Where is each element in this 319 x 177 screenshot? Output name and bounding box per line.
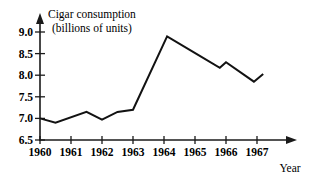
y-axis-arrowhead: [36, 13, 44, 24]
y-tick-labels: 9.0 8.5 8.0 7.5 7.0 6.5: [19, 26, 34, 146]
x-axis-title: Year: [279, 162, 300, 174]
chart-canvas: 9.0 8.5 8.0 7.5 7.0 6.5 1960 1961 1962 1…: [0, 0, 319, 177]
y-tick-label-3: 7.5: [19, 91, 34, 103]
x-tick-label-1: 1961: [60, 146, 83, 158]
x-axis: [40, 136, 297, 144]
x-tick-label-4: 1964: [153, 146, 176, 158]
chart-title-line-1: Cigar consumption: [48, 8, 136, 21]
x-tick-label-3: 1963: [122, 146, 145, 158]
x-tick-label-6: 1966: [215, 146, 238, 158]
data-series-line: [40, 36, 263, 122]
chart-title: Cigar consumption (billions of units): [48, 8, 136, 35]
chart-title-line-2: (billions of units): [52, 22, 132, 35]
x-tick-labels: 1960 1961 1962 1963 1964 1965 1966 1967: [29, 146, 269, 158]
y-tick-label-0: 9.0: [19, 26, 34, 38]
cigar-consumption-chart: 9.0 8.5 8.0 7.5 7.0 6.5 1960 1961 1962 1…: [0, 0, 319, 177]
x-tick-label-5: 1965: [184, 146, 207, 158]
x-tick-label-2: 1962: [91, 146, 114, 158]
y-tick-label-2: 8.0: [19, 69, 34, 81]
x-tick-label-7: 1967: [246, 146, 269, 158]
y-tick-label-5: 6.5: [19, 134, 34, 146]
x-axis-arrowhead: [286, 136, 297, 144]
y-tick-label-4: 7.0: [19, 112, 34, 124]
x-tick-label-0: 1960: [29, 146, 52, 158]
y-tick-label-1: 8.5: [19, 48, 34, 60]
